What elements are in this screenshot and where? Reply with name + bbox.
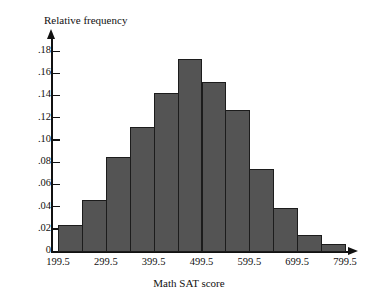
- x-axis-arrow-icon: [348, 247, 358, 255]
- y-axis-tick-label: .12: [11, 112, 51, 123]
- y-axis-tick-label: .18: [11, 45, 51, 56]
- histogram-bar: [225, 110, 250, 252]
- x-axis-tick-label: 799.5: [320, 256, 370, 268]
- histogram-bar: [82, 200, 107, 252]
- x-axis-tick-label: 199.5: [33, 256, 83, 268]
- y-axis-tick-label: .14: [11, 89, 51, 100]
- y-axis-tick: [53, 51, 60, 52]
- y-axis-tick-label: .06: [11, 178, 51, 189]
- y-axis-tick: [53, 162, 60, 163]
- histogram-bar: [130, 127, 155, 252]
- histogram-bar: [321, 244, 346, 252]
- y-axis-tick-label: .08: [11, 156, 51, 167]
- histogram-bar: [273, 208, 298, 252]
- histogram-bar: [297, 235, 322, 252]
- x-axis-title: Math SAT score: [0, 277, 378, 290]
- y-axis-tick-label: .10: [11, 134, 51, 145]
- y-axis-arrow-icon: [47, 29, 55, 39]
- histogram-bar: [154, 93, 179, 252]
- x-axis-tick-label: 299.5: [81, 256, 131, 268]
- y-axis-tick: [53, 117, 60, 118]
- y-axis-tick: [53, 184, 60, 185]
- histogram-bar: [58, 225, 83, 252]
- y-axis-tick-label: .16: [11, 67, 51, 78]
- y-axis-tick: [53, 73, 60, 74]
- y-axis-tick-label: .04: [11, 201, 51, 212]
- y-axis-tick-label: 0: [11, 245, 51, 256]
- y-axis-tick: [53, 206, 60, 207]
- histogram-bar: [249, 169, 274, 252]
- y-axis-tick: [53, 95, 60, 96]
- x-axis-tick-label: 499.5: [177, 256, 227, 268]
- y-axis-line: [51, 38, 53, 252]
- histogram-figure: Relative frequency 0.02.04.06.08.10.12.1…: [0, 0, 378, 304]
- x-axis-tick-label: 399.5: [129, 256, 179, 268]
- x-axis-tick-label: 699.5: [272, 256, 322, 268]
- plot-area: 0.02.04.06.08.10.12.14.16.18 199.5299.53…: [0, 0, 378, 304]
- histogram-bar: [178, 59, 203, 252]
- y-axis-tick: [53, 139, 60, 140]
- x-axis-tick-label: 599.5: [224, 256, 274, 268]
- histogram-bar: [202, 82, 227, 252]
- y-axis-tick-label: .02: [11, 223, 51, 234]
- histogram-bar: [106, 157, 131, 252]
